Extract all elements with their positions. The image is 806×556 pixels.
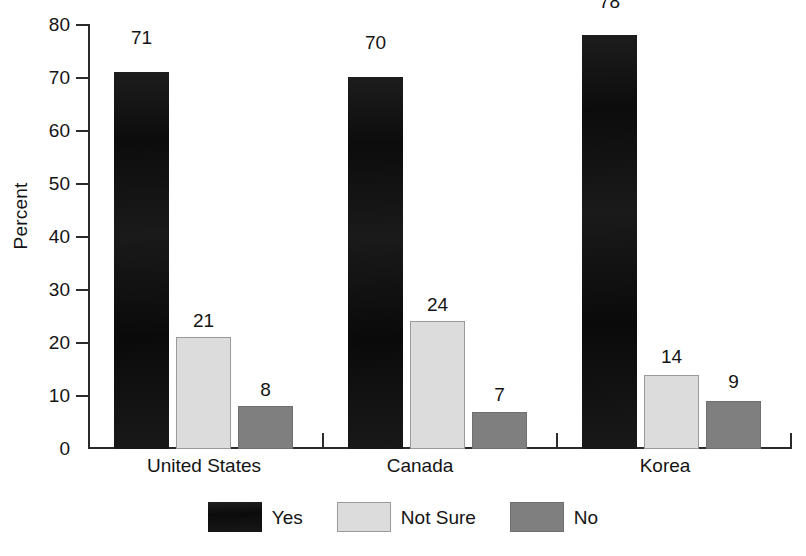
chart-legend: Yes Not Sure No	[0, 502, 806, 532]
legend-swatch-yes-icon	[208, 502, 262, 532]
bar-value-canada-not-sure: 24	[400, 295, 475, 314]
legend-item-not-sure: Not Sure	[337, 502, 476, 532]
y-tick-label-20: 20	[22, 333, 70, 352]
bar-united-states-yes	[114, 72, 169, 449]
legend-item-no: No	[510, 502, 598, 532]
y-tick-label-10: 10	[22, 386, 70, 405]
x-axis-label-canada: Canada	[330, 455, 510, 477]
y-axis-line	[88, 24, 90, 449]
legend-swatch-not-sure-icon	[337, 502, 391, 532]
y-tick-label-30: 30	[22, 280, 70, 299]
x-axis-label-korea: Korea	[580, 455, 750, 477]
y-tick-label-50: 50	[22, 174, 70, 193]
bar-canada-not-sure	[410, 321, 465, 449]
bar-value-korea-not-sure: 14	[634, 347, 709, 366]
bar-united-states-no	[238, 406, 293, 449]
legend-label-no: No	[574, 508, 598, 527]
legend-swatch-no-icon	[510, 502, 564, 532]
y-tick-label-0: 0	[22, 439, 70, 458]
y-tick-label-60: 60	[22, 121, 70, 140]
bar-value-united-states-yes: 71	[104, 28, 179, 47]
legend-label-not-sure: Not Sure	[401, 508, 476, 527]
bar-value-united-states-no: 8	[228, 380, 303, 399]
x-axis-right-cap	[790, 433, 792, 449]
bar-canada-yes	[348, 77, 403, 449]
bar-korea-no	[706, 401, 761, 449]
bar-canada-no	[472, 412, 527, 449]
bar-korea-not-sure	[644, 375, 699, 449]
legend-label-yes: Yes	[272, 508, 303, 527]
bar-united-states-not-sure	[176, 337, 231, 449]
y-tick-label-70: 70	[22, 68, 70, 87]
bar-value-canada-yes: 70	[338, 33, 413, 52]
legend-item-yes: Yes	[208, 502, 303, 532]
y-tick-label-40: 40	[22, 227, 70, 246]
x-axis-label-united-states: United States	[94, 455, 314, 477]
bar-korea-yes	[582, 35, 637, 449]
bar-value-korea-no: 9	[696, 372, 771, 391]
y-tick-label-80: 80	[22, 15, 70, 34]
bar-chart: Percent 80 70 60 50 40 30 20 10 0 71 21 …	[0, 0, 806, 556]
x-tick-separator-1	[322, 433, 324, 448]
bar-value-korea-yes: 78	[572, 0, 647, 11]
bar-value-canada-no: 7	[462, 385, 537, 404]
bar-value-united-states-not-sure: 21	[166, 311, 241, 330]
x-tick-separator-2	[556, 433, 558, 448]
